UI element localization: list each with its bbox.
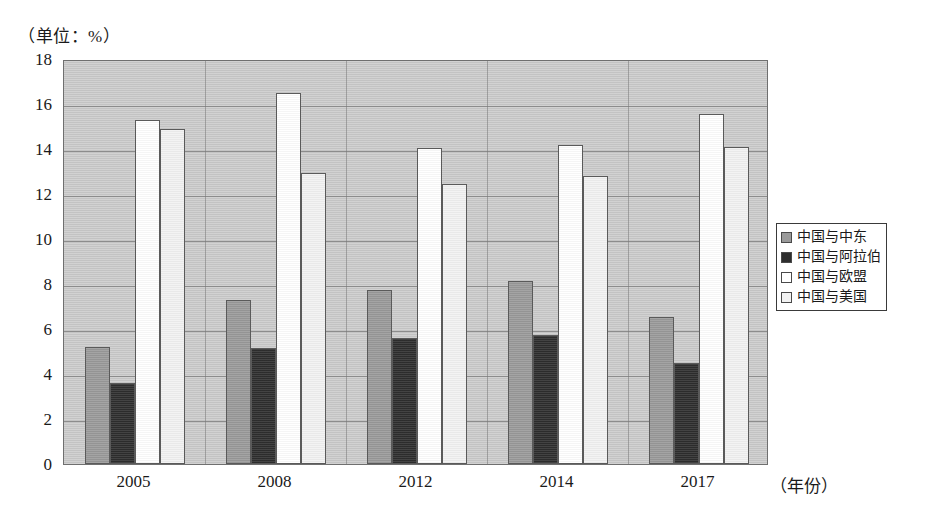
legend-item: 中国与美国 bbox=[781, 287, 881, 307]
x-tick-label: 2008 bbox=[258, 472, 292, 492]
legend-swatch-eu bbox=[781, 272, 792, 283]
legend-item: 中国与中东 bbox=[781, 227, 881, 247]
x-tick-label: 2012 bbox=[399, 472, 433, 492]
legend-item-label: 中国与欧盟 bbox=[797, 270, 867, 284]
legend-swatch-usa bbox=[781, 292, 792, 303]
legend-item: 中国与欧盟 bbox=[781, 267, 881, 287]
legend: 中国与中东中国与阿拉伯中国与欧盟中国与美国 bbox=[776, 223, 887, 311]
legend-item-label: 中国与美国 bbox=[797, 290, 867, 304]
legend-swatch-middle-east bbox=[781, 232, 792, 243]
bar-chart: （单位：%） 024681012141618 20052008201220142… bbox=[0, 0, 935, 528]
x-tick-label: 2014 bbox=[540, 472, 574, 492]
x-axis-title: （年份） bbox=[770, 472, 838, 497]
legend-item: 中国与阿拉伯 bbox=[781, 247, 881, 267]
legend-item-label: 中国与阿拉伯 bbox=[797, 250, 881, 264]
x-tick-label: 2017 bbox=[681, 472, 715, 492]
legend-swatch-arab bbox=[781, 252, 792, 263]
legend-item-label: 中国与中东 bbox=[797, 230, 867, 244]
x-tick-label: 2005 bbox=[117, 472, 151, 492]
